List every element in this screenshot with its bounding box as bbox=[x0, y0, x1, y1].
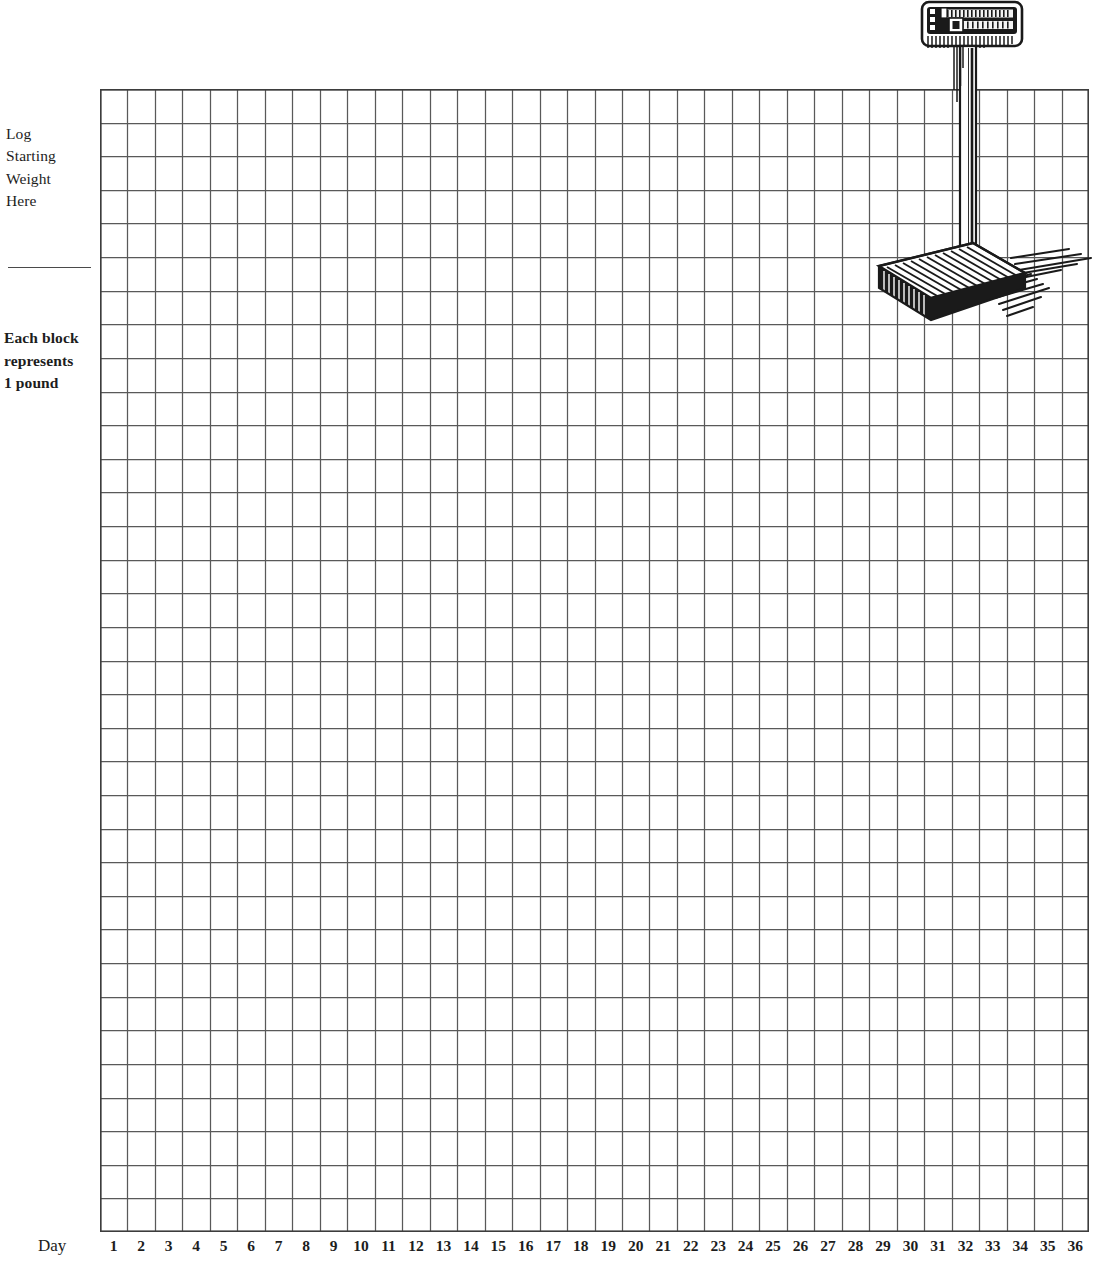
day-tick-label: 33 bbox=[981, 1237, 1005, 1255]
day-tick-label: 20 bbox=[624, 1237, 648, 1255]
each-block-legend-note: Each block represents 1 pound bbox=[4, 327, 79, 395]
day-tick-label: 13 bbox=[431, 1237, 455, 1255]
day-tick-label: 19 bbox=[596, 1237, 620, 1255]
scale-beam-head bbox=[922, 2, 1022, 52]
day-tick-label: 28 bbox=[843, 1237, 867, 1255]
day-tick-label: 12 bbox=[404, 1237, 428, 1255]
day-tick-label: 27 bbox=[816, 1237, 840, 1255]
day-tick-label: 3 bbox=[157, 1237, 181, 1255]
day-tick-label: 32 bbox=[953, 1237, 977, 1255]
day-tick-label: 8 bbox=[294, 1237, 318, 1255]
day-tick-label: 4 bbox=[184, 1237, 208, 1255]
day-tick-label: 35 bbox=[1036, 1237, 1060, 1255]
day-tick-label: 22 bbox=[679, 1237, 703, 1255]
day-axis-title: Day bbox=[38, 1236, 66, 1256]
day-tick-label: 34 bbox=[1008, 1237, 1032, 1255]
weight-grid[interactable] bbox=[100, 89, 1089, 1232]
starting-weight-blank-line[interactable] bbox=[8, 267, 91, 268]
day-tick-label: 21 bbox=[651, 1237, 675, 1255]
day-tick-label: 16 bbox=[514, 1237, 538, 1255]
day-tick-label: 15 bbox=[486, 1237, 510, 1255]
day-tick-label: 17 bbox=[541, 1237, 565, 1255]
day-tick-label: 14 bbox=[459, 1237, 483, 1255]
day-tick-label: 6 bbox=[239, 1237, 263, 1255]
day-tick-label: 26 bbox=[789, 1237, 813, 1255]
day-tick-label: 18 bbox=[569, 1237, 593, 1255]
day-tick-label: 1 bbox=[102, 1237, 126, 1255]
day-tick-label: 9 bbox=[322, 1237, 346, 1255]
day-tick-label: 24 bbox=[734, 1237, 758, 1255]
day-tick-label: 29 bbox=[871, 1237, 895, 1255]
day-tick-label: 23 bbox=[706, 1237, 730, 1255]
day-tick-label: 7 bbox=[267, 1237, 291, 1255]
day-tick-label: 10 bbox=[349, 1237, 373, 1255]
day-tick-label: 11 bbox=[376, 1237, 400, 1255]
day-tick-label: 2 bbox=[129, 1237, 153, 1255]
day-tick-label: 36 bbox=[1063, 1237, 1087, 1255]
day-tick-label: 31 bbox=[926, 1237, 950, 1255]
day-tick-label: 30 bbox=[898, 1237, 922, 1255]
log-starting-weight-label: Log Starting Weight Here bbox=[6, 123, 56, 212]
grid-canvas[interactable] bbox=[100, 89, 1089, 1232]
weight-log-page: Log Starting Weight Here Each block repr… bbox=[0, 0, 1110, 1269]
day-tick-label: 25 bbox=[761, 1237, 785, 1255]
day-axis: Day 123456789101112131415161718192021222… bbox=[0, 1236, 1110, 1269]
day-tick-label: 5 bbox=[212, 1237, 236, 1255]
